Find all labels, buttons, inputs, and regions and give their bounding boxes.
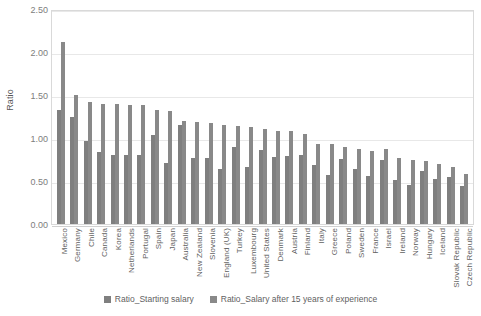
bar <box>424 161 428 224</box>
bar <box>343 147 347 224</box>
bar <box>74 95 78 224</box>
x-axis-label-cell: Israel <box>377 226 391 292</box>
bars-layer <box>52 11 473 224</box>
x-axis-label-cell: Czech Republic <box>458 226 472 292</box>
bar <box>316 144 320 224</box>
bar <box>330 144 334 224</box>
bar-group <box>377 11 390 224</box>
bar <box>249 127 253 224</box>
x-axis-label-cell: Norway <box>404 226 418 292</box>
bar <box>451 167 455 224</box>
legend-label: Ratio_Starting salary <box>115 294 194 304</box>
y-axis-tick-label: 1.50 <box>18 91 48 101</box>
bar-group <box>296 11 309 224</box>
x-axis-label-cell: Korea <box>107 226 121 292</box>
bar <box>357 149 361 224</box>
bar <box>128 105 132 224</box>
bar <box>115 104 119 224</box>
x-axis-label-cell: Finland <box>296 226 310 292</box>
x-axis-label-cell: France <box>364 226 378 292</box>
x-axis-label-cell: Slovenia <box>202 226 216 292</box>
bar-group <box>431 11 444 224</box>
x-axis-label-cell: England (UK) <box>215 226 229 292</box>
bar-group <box>256 11 269 224</box>
x-axis-category-labels: MexicoGermanyChileCanadaKoreaNetherlands… <box>51 226 474 292</box>
plot-area <box>51 10 474 225</box>
x-axis-label-cell: Canada <box>94 226 108 292</box>
bar <box>464 174 468 224</box>
bar-group <box>458 11 471 224</box>
legend-swatch-icon <box>104 296 111 303</box>
x-axis-label: Czech Republic <box>465 228 474 286</box>
bar-group <box>404 11 417 224</box>
bar <box>88 102 92 224</box>
x-axis-label-cell: Austria <box>283 226 297 292</box>
x-axis-label-cell: Luxembourg <box>242 226 256 292</box>
y-axis-tick-label: 0.50 <box>18 177 48 187</box>
bar-group <box>54 11 67 224</box>
bar-group <box>269 11 282 224</box>
bar-group <box>323 11 336 224</box>
x-axis-label-cell: Germany <box>67 226 81 292</box>
bar <box>276 131 280 224</box>
bar-group <box>108 11 121 224</box>
x-axis-label-cell: Slovak Republic <box>445 226 459 292</box>
bar <box>222 125 226 224</box>
bar <box>155 110 159 224</box>
x-axis-label-cell: Chile <box>80 226 94 292</box>
bar-group <box>444 11 457 224</box>
bar <box>168 111 172 224</box>
bar-group <box>350 11 363 224</box>
bar-group <box>390 11 403 224</box>
x-axis-label-cell: Denmark <box>269 226 283 292</box>
x-axis-label-cell: Sweden <box>350 226 364 292</box>
bar <box>195 122 199 224</box>
bar <box>209 123 213 224</box>
x-axis-label-cell: New Zealand <box>188 226 202 292</box>
bar <box>303 134 307 224</box>
x-axis-label-cell: Mexico <box>53 226 67 292</box>
x-axis-label-cell: Netherlands <box>121 226 135 292</box>
legend-item[interactable]: Ratio_Starting salary <box>104 294 194 304</box>
x-axis-label-cell: Iceland <box>431 226 445 292</box>
bar <box>397 158 401 224</box>
bar-group <box>135 11 148 224</box>
x-axis-label-cell: Italy <box>310 226 324 292</box>
x-axis-label-cell: Ireland <box>391 226 405 292</box>
bar-group <box>81 11 94 224</box>
bar <box>141 105 145 224</box>
bar-group <box>94 11 107 224</box>
bar <box>61 42 65 224</box>
bar-group <box>189 11 202 224</box>
bar-group <box>229 11 242 224</box>
x-axis-label-cell: Hungary <box>418 226 432 292</box>
bar <box>182 121 186 224</box>
x-axis-label-cell: Japan <box>161 226 175 292</box>
chart-legend: Ratio_Starting salaryRatio_Salary after … <box>0 294 481 304</box>
bar-group <box>242 11 255 224</box>
legend-swatch-icon <box>210 296 217 303</box>
x-axis-label-cell: Portugal <box>134 226 148 292</box>
bar <box>263 129 267 224</box>
x-axis-label-cell: Spain <box>148 226 162 292</box>
bar-group <box>417 11 430 224</box>
legend-item[interactable]: Ratio_Salary after 15 years of experienc… <box>210 294 377 304</box>
legend-label: Ratio_Salary after 15 years of experienc… <box>221 294 377 304</box>
bar <box>289 131 293 224</box>
bar <box>437 164 441 224</box>
bar <box>236 126 240 224</box>
bar-group <box>337 11 350 224</box>
y-axis-tick-label: 2.00 <box>18 48 48 58</box>
x-axis-label-cell: Australia <box>175 226 189 292</box>
bar-group <box>283 11 296 224</box>
x-axis-label-cell: United States <box>256 226 270 292</box>
x-axis-label-cell: Turkey <box>229 226 243 292</box>
x-axis-label-cell: Greece <box>323 226 337 292</box>
y-axis-tick-label: 2.50 <box>18 5 48 15</box>
y-axis-tick-label: 1.00 <box>18 134 48 144</box>
y-axis-title: Ratio <box>5 70 15 130</box>
bar-group <box>121 11 134 224</box>
bar <box>411 160 415 225</box>
bar-group <box>175 11 188 224</box>
bar-group <box>363 11 376 224</box>
